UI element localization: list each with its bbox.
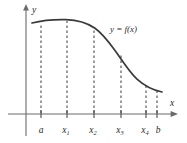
y-axis-group: [23, 4, 29, 136]
tick-label-b: b: [156, 125, 161, 135]
curve-equation-label: y = f(x): [109, 24, 137, 34]
tick-label-x4: x4: [140, 125, 148, 136]
x-axis-arrow-icon: [171, 111, 178, 117]
x-axis-label: x: [169, 98, 175, 108]
function-graph-figure: a x1 x2 x3 x4 b y x y = f(x): [0, 0, 187, 143]
tick-label-a: a: [39, 125, 44, 135]
x-axis-tick-labels-group: a x1 x2 x3 x4 b: [39, 125, 161, 136]
tick-label-x1: x1: [61, 125, 69, 136]
y-axis-arrow-icon: [23, 4, 29, 11]
tick-label-x2: x2: [88, 125, 97, 136]
y-axis-label: y: [31, 5, 37, 15]
function-curve: [32, 20, 162, 92]
dashed-lines-group: [41, 21, 157, 113]
x-axis-group: [8, 111, 178, 117]
tick-label-x3: x3: [115, 125, 123, 136]
graph-canvas: a x1 x2 x3 x4 b y x y = f(x): [0, 0, 187, 143]
